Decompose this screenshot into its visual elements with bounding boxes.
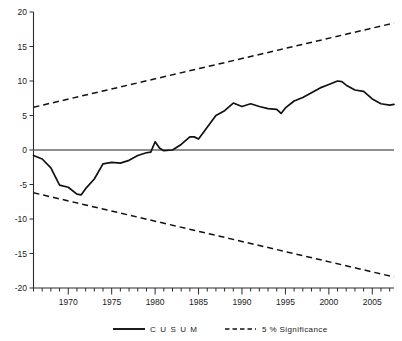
legend-label-cusum: C U S U M bbox=[150, 325, 198, 334]
chart-background bbox=[0, 0, 402, 341]
x-tick-label: 1990 bbox=[233, 297, 252, 307]
y-tick-label: 20 bbox=[18, 7, 28, 17]
y-tick-label: -20 bbox=[15, 283, 28, 293]
y-tick-label: -5 bbox=[19, 180, 27, 190]
y-tick-label: 15 bbox=[18, 42, 28, 52]
x-tick-label: 1995 bbox=[276, 297, 295, 307]
x-tick-label: 1985 bbox=[189, 297, 208, 307]
x-tick-label: 1975 bbox=[102, 297, 121, 307]
y-tick-label: -15 bbox=[15, 249, 28, 259]
cusum-chart: 20151050-5-10-15-20 19701975198019851990… bbox=[0, 0, 402, 341]
x-tick-label: 1980 bbox=[146, 297, 165, 307]
y-tick-label: 10 bbox=[18, 76, 28, 86]
legend-label-significance: 5 % Significance bbox=[262, 325, 328, 334]
x-tick-label: 2005 bbox=[363, 297, 382, 307]
y-tick-label: -10 bbox=[15, 214, 28, 224]
x-tick-label: 2000 bbox=[319, 297, 338, 307]
y-tick-label: 0 bbox=[22, 145, 27, 155]
y-tick-label: 5 bbox=[22, 111, 27, 121]
x-tick-label: 1970 bbox=[59, 297, 78, 307]
chart-canvas: 20151050-5-10-15-20 19701975198019851990… bbox=[0, 0, 402, 341]
